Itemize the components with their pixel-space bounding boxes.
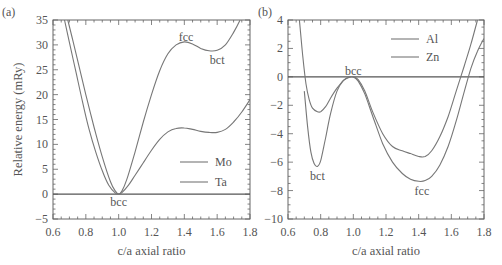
annotation-bcc: bcc [110, 195, 127, 209]
x-tick-label: 1.0 [111, 225, 126, 239]
legend-label-mo: Mo [215, 155, 232, 169]
y-tick-label: 5 [42, 162, 48, 176]
y-tick-label: −5 [35, 212, 48, 226]
x-axis-title: c/a axial ratio [352, 244, 420, 258]
x-tick-label: 0.8 [78, 225, 93, 239]
y-tick-label: 30 [36, 38, 48, 52]
y-tick-label: −6 [270, 155, 283, 169]
x-tick-label: 0.6 [281, 225, 296, 239]
x-tick-label: 1.2 [144, 225, 159, 239]
plot-frame [288, 20, 484, 219]
x-tick-label: 1.4 [177, 225, 192, 239]
y-axis-title: Relative energy (mRy) [11, 63, 25, 177]
annotation-bct: bct [310, 169, 325, 183]
x-tick-label: 1.0 [346, 225, 361, 239]
panel-label: (a) [2, 5, 15, 19]
y-tick-label: 20 [36, 88, 48, 102]
x-tick-label: 1.4 [411, 225, 426, 239]
panel-label: (b) [258, 5, 272, 19]
panel-b: 0.60.81.01.21.41.61.8420−2−4−6−8−10bccbc… [258, 5, 492, 258]
curve-zn [304, 39, 484, 182]
y-tick-label: −2 [270, 98, 283, 112]
annotation-bcc: bcc [345, 64, 362, 78]
y-tick-label: 0 [42, 187, 48, 201]
y-tick-label: 4 [277, 13, 283, 27]
y-tick-label: 15 [36, 113, 48, 127]
x-axis-title: c/a axial ratio [117, 244, 185, 258]
y-tick-label: −4 [270, 127, 283, 141]
y-tick-label: 35 [36, 13, 48, 27]
x-tick-label: 0.6 [46, 225, 61, 239]
y-tick-label: −8 [270, 184, 283, 198]
x-tick-label: 1.8 [477, 225, 492, 239]
annotation-fcc: fcc [415, 184, 430, 198]
annotation-bct: bct [210, 53, 225, 67]
panel-a: 0.60.81.01.21.41.61.835302520151050−5fcc… [2, 5, 258, 258]
x-tick-label: 1.6 [444, 225, 459, 239]
y-tick-label: 0 [277, 70, 283, 84]
x-tick-label: 1.6 [210, 225, 225, 239]
y-tick-label: 10 [36, 137, 48, 151]
y-tick-label: 2 [277, 41, 283, 55]
legend-label-ta: Ta [215, 175, 227, 189]
legend-label-zn: Zn [426, 50, 439, 64]
chart-figure: 0.60.81.01.21.41.61.835302520151050−5fcc… [0, 0, 502, 265]
x-tick-label: 0.8 [313, 225, 328, 239]
plot-frame [53, 20, 250, 219]
y-tick-label: −10 [264, 212, 283, 226]
legend-label-al: Al [426, 32, 439, 46]
x-tick-label: 1.2 [379, 225, 394, 239]
annotation-fcc: fcc [179, 30, 194, 44]
y-tick-label: 25 [36, 63, 48, 77]
x-tick-label: 1.8 [243, 225, 258, 239]
